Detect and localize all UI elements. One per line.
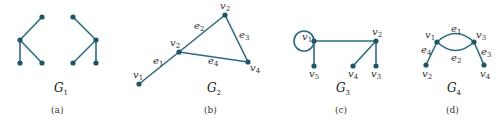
label-e3: e3 xyxy=(239,29,249,42)
panel-a: G1 (a) xyxy=(17,14,98,115)
caption-c: (c) xyxy=(335,105,347,115)
vertex xyxy=(17,60,22,65)
graph-name-g1: G1 xyxy=(54,81,68,97)
vertex-v1 xyxy=(136,81,141,86)
caption-d: (d) xyxy=(446,105,459,115)
vertex xyxy=(70,60,75,65)
vertex xyxy=(93,37,98,42)
label-v3: v3 xyxy=(371,68,381,81)
label-v4: v4 xyxy=(250,62,261,75)
label-v3: v3 xyxy=(476,29,486,42)
label-v2: v2 xyxy=(372,26,382,39)
vertex xyxy=(17,37,22,42)
graph-name-g3: G3 xyxy=(336,81,350,97)
label-e4: e4 xyxy=(421,44,432,57)
label-v1: v1 xyxy=(425,29,435,42)
label-v1: v1 xyxy=(133,69,143,82)
label-v2: v2 xyxy=(422,68,432,81)
label-v5: v5 xyxy=(309,68,319,81)
panel-c: v1 v2 v5 v4 v3 G3 (c) xyxy=(294,26,382,115)
label-v4: v4 xyxy=(348,68,359,81)
vertex-v1 xyxy=(434,39,439,44)
graph-figure: G1 (a) v1 v2 v2 v4 e1 e2 e3 e4 G2 (b) v1 xyxy=(0,0,503,121)
caption-b: (b) xyxy=(204,105,217,115)
panel-d: v1 v3 v2 v4 e1 e2 e3 e4 G4 (d) xyxy=(421,23,491,115)
graph-name-g4: G4 xyxy=(447,81,462,97)
vertex-v2-top xyxy=(222,12,227,17)
graph-name-g2: G2 xyxy=(207,81,221,97)
label-v2-mid: v2 xyxy=(170,37,180,50)
vertex xyxy=(39,14,44,19)
vertex-v2 xyxy=(423,62,428,67)
vertex-v3 xyxy=(471,39,476,44)
vertex xyxy=(39,60,44,65)
vertex-v1 xyxy=(311,38,316,43)
panel-b: v1 v2 v2 v4 e1 e2 e3 e4 G2 (b) xyxy=(133,0,261,115)
label-e1: e1 xyxy=(153,55,163,68)
vertex-v4 xyxy=(481,62,486,67)
caption-a: (a) xyxy=(51,105,63,115)
label-e2: e2 xyxy=(194,20,204,33)
vertex-v2 xyxy=(176,49,181,54)
label-e3: e3 xyxy=(481,46,491,59)
label-v4: v4 xyxy=(480,68,491,81)
label-e2: e2 xyxy=(451,52,461,65)
vertex-v2 xyxy=(373,38,378,43)
vertex xyxy=(93,60,98,65)
vertex xyxy=(70,14,75,19)
label-v2-top: v2 xyxy=(220,0,230,13)
